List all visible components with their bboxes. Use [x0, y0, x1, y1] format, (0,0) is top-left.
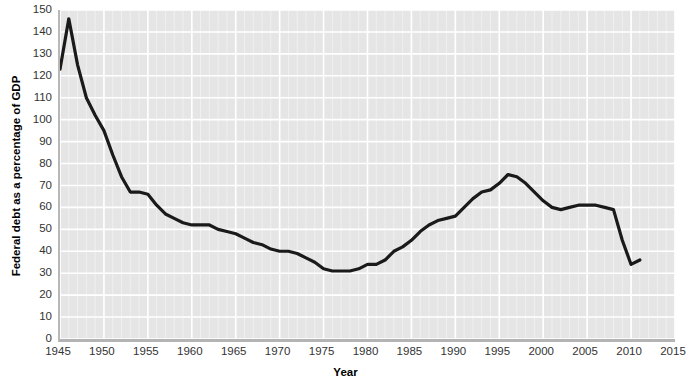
y-tick-label: 140: [6, 26, 52, 38]
y-tick-label: 150: [6, 4, 52, 16]
y-tick-label: 20: [6, 289, 52, 301]
y-tick-label: 40: [6, 245, 52, 257]
x-tick-label: 2015: [643, 346, 691, 358]
y-tick-label: 90: [6, 136, 52, 148]
y-tick-label: 30: [6, 267, 52, 279]
y-tick-label: 100: [6, 114, 52, 126]
data-series-line: [60, 10, 675, 339]
y-axis-tick-labels: 0102030405060708090100110120130140150: [4, 0, 52, 383]
line-chart: Federal debt as a percentage of GDP 0102…: [0, 0, 691, 383]
y-tick-label: 110: [6, 92, 52, 104]
y-tick-label: 130: [6, 48, 52, 60]
y-tick-label: 60: [6, 201, 52, 213]
y-tick-label: 50: [6, 223, 52, 235]
x-axis-title: Year: [0, 366, 691, 378]
y-tick-label: 0: [6, 333, 52, 345]
y-tick-label: 120: [6, 70, 52, 82]
x-axis-tick-labels: 1945195019551960196519701975198019851990…: [0, 346, 691, 362]
y-tick-label: 80: [6, 158, 52, 170]
y-tick-label: 10: [6, 311, 52, 323]
plot-area: [58, 10, 675, 342]
y-tick-label: 70: [6, 180, 52, 192]
